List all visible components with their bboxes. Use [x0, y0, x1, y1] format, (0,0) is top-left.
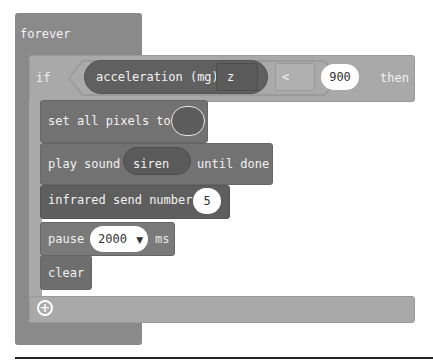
axis-dropdown[interactable]	[216, 63, 258, 91]
play-sound-label: play sound	[48, 157, 120, 171]
infrared-send-label: infrared send number	[48, 193, 193, 207]
acceleration-label: acceleration (mg)	[96, 70, 219, 84]
if-block-bottom	[29, 296, 415, 323]
color-picker[interactable]	[171, 106, 205, 136]
pause-duration-value: 2000	[98, 232, 127, 246]
ms-label: ms	[155, 232, 169, 246]
forever-block-bottom	[15, 322, 142, 345]
infrared-number-input[interactable]: 5	[193, 188, 221, 214]
pause-duration-dropdown[interactable]: 2000 ▼	[90, 226, 148, 252]
threshold-input[interactable]: 900	[321, 64, 359, 90]
operator-dropdown[interactable]	[275, 63, 315, 91]
operator-value: <	[282, 70, 289, 84]
caret-down-icon: ▼	[136, 235, 143, 245]
clear-label: clear	[48, 266, 84, 280]
set-all-pixels-label: set all pixels to	[48, 114, 171, 128]
pause-label: pause	[48, 232, 84, 246]
until-done-label: until done	[197, 157, 269, 171]
if-label: if	[36, 71, 50, 85]
forever-block-arm	[15, 57, 29, 322]
plus-circle-icon[interactable]: +	[37, 300, 53, 316]
forever-label: forever	[20, 27, 71, 41]
sound-value: siren	[133, 157, 169, 171]
then-label: then	[380, 71, 409, 85]
axis-value: z	[227, 70, 234, 84]
divider	[15, 357, 433, 359]
